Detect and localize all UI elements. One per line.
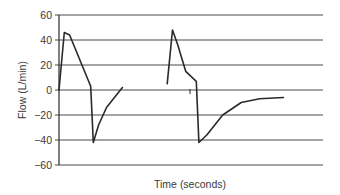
- y-tick-label: −20: [34, 109, 52, 121]
- y-tick-label: −40: [34, 134, 52, 146]
- y-tick-label: 40: [40, 34, 52, 46]
- flow-time-chart: 6040200−20−40−60 Time (seconds) Flow (L/…: [0, 0, 340, 195]
- flow-curve: [167, 30, 283, 143]
- y-axis-tick-labels: 6040200−20−40−60: [34, 9, 52, 171]
- flow-waveform: [59, 30, 283, 143]
- gridlines: [55, 15, 323, 165]
- x-axis-label: Time (seconds): [154, 178, 226, 190]
- y-tick-label: 20: [40, 59, 52, 71]
- flow-curve: [59, 33, 122, 143]
- y-tick-label: −60: [34, 159, 52, 171]
- y-tick-label: 0: [46, 84, 52, 96]
- y-tick-label: 60: [40, 9, 52, 21]
- y-axis-label: Flow (L/min): [16, 61, 28, 119]
